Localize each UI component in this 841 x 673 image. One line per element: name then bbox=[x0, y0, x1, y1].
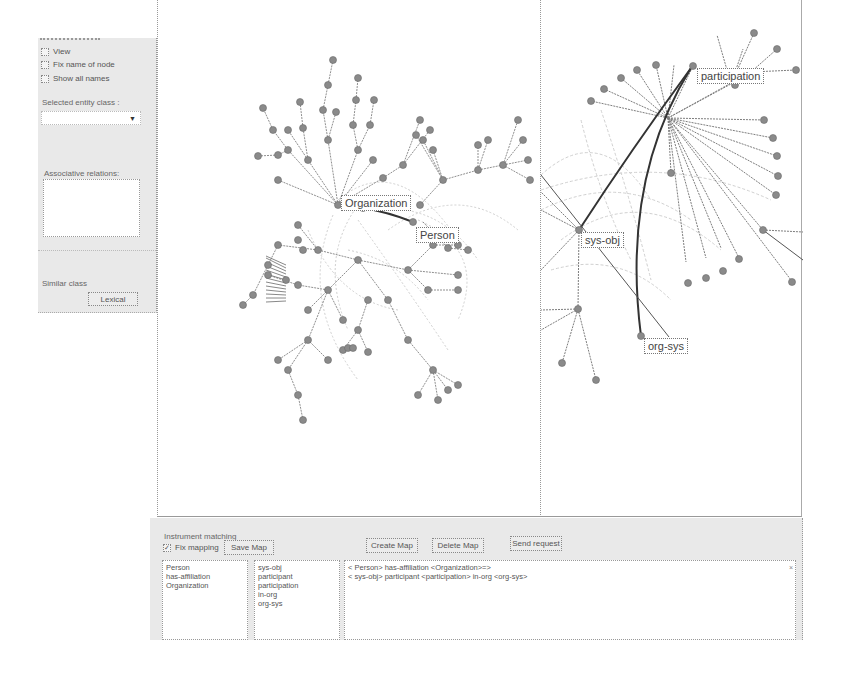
list-item[interactable]: sys-obj bbox=[258, 563, 336, 572]
fix-name-of-node-checkbox[interactable] bbox=[41, 61, 49, 69]
list-item[interactable]: Person bbox=[166, 563, 244, 572]
show-all-names-label: Show all names bbox=[53, 74, 109, 83]
query-line: < Person> has-affiliation <Organization>… bbox=[348, 563, 792, 572]
sidebar-header-divider bbox=[40, 38, 100, 40]
close-icon[interactable]: × bbox=[789, 563, 793, 572]
node-label-participation[interactable]: participation bbox=[697, 68, 764, 84]
view-checkbox-row[interactable]: View bbox=[41, 47, 70, 56]
instrument-matching-panel: Instrument matching ✓ Fix mapping Save M… bbox=[150, 518, 803, 640]
source-entities-list[interactable]: Person has-affiliation Organization bbox=[162, 560, 248, 640]
create-map-button[interactable]: Create Map bbox=[366, 538, 418, 553]
query-line: < sys-obj> participant <participation> i… bbox=[348, 572, 792, 581]
query-output-textarea[interactable]: < Person> has-affiliation <Organization>… bbox=[344, 560, 796, 640]
node-label-organization[interactable]: Organization bbox=[341, 195, 411, 211]
list-item[interactable]: in-org bbox=[258, 590, 336, 599]
left-graph-svg bbox=[158, 0, 541, 517]
entity-class-dropdown[interactable]: ▼ bbox=[41, 111, 141, 125]
right-graph-canvas[interactable]: participation sys-obj org-sys bbox=[540, 0, 802, 517]
associative-relations-list[interactable] bbox=[43, 179, 140, 237]
send-request-button[interactable]: Send request bbox=[510, 536, 562, 551]
list-item[interactable]: participation bbox=[258, 581, 336, 590]
view-checkbox[interactable] bbox=[41, 48, 49, 56]
fix-name-of-node-label: Fix name of node bbox=[53, 60, 115, 69]
save-map-button[interactable]: Save Map bbox=[224, 540, 274, 555]
show-all-names-checkbox-row[interactable]: Show all names bbox=[41, 74, 109, 83]
node-label-org-sys[interactable]: org-sys bbox=[644, 338, 688, 354]
list-item[interactable]: Organization bbox=[166, 581, 244, 590]
delete-map-button[interactable]: Delete Map bbox=[432, 538, 484, 553]
similar-class-label: Similar class bbox=[42, 279, 87, 288]
list-item[interactable]: has-affiliation bbox=[166, 572, 244, 581]
list-item[interactable]: org-sys bbox=[258, 599, 336, 608]
node-label-sys-obj[interactable]: sys-obj bbox=[581, 232, 624, 248]
left-graph-canvas[interactable]: Organization Person bbox=[157, 0, 540, 517]
show-all-names-checkbox[interactable] bbox=[41, 75, 49, 83]
fix-mapping-label: Fix mapping bbox=[175, 543, 219, 552]
fix-mapping-checkbox[interactable]: ✓ bbox=[163, 544, 171, 552]
fix-name-of-node-checkbox-row[interactable]: Fix name of node bbox=[41, 60, 115, 69]
node-label-person[interactable]: Person bbox=[416, 227, 459, 243]
selected-entity-class-label: Selected entity class : bbox=[42, 98, 119, 107]
sidebar-divider bbox=[38, 250, 156, 251]
associative-relations-label: Associative relations: bbox=[44, 169, 119, 178]
fix-mapping-checkbox-row[interactable]: ✓ Fix mapping bbox=[163, 543, 219, 552]
view-checkbox-label: View bbox=[53, 47, 70, 56]
lexical-button[interactable]: Lexical bbox=[88, 292, 138, 306]
list-item[interactable]: participant bbox=[258, 572, 336, 581]
target-entities-list[interactable]: sys-obj participant participation in-org… bbox=[254, 560, 340, 640]
chevron-down-icon: ▼ bbox=[129, 115, 136, 122]
sidebar-panel: View Fix name of node Show all names Sel… bbox=[38, 38, 157, 313]
